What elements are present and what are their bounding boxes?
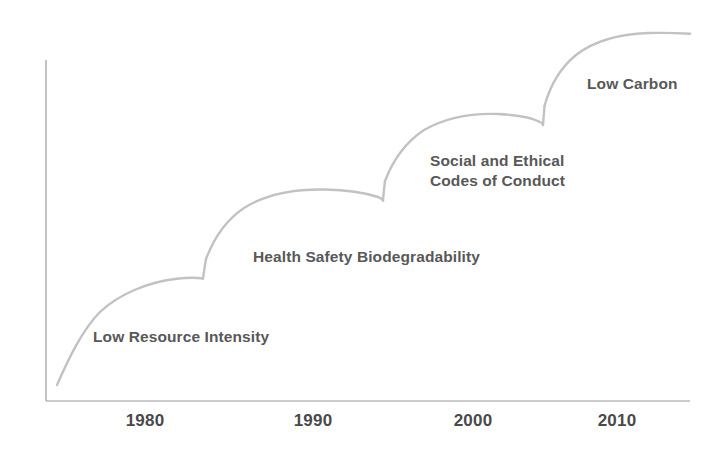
wave-label-low-carbon: Low Carbon [587, 74, 678, 94]
wave-3-to-4-step [543, 106, 545, 125]
wave-label-social-ethical-codes: Social and Ethical Codes of Conduct [430, 151, 565, 191]
wave-label-social-ethical-line1: Social and Ethical [430, 151, 565, 171]
x-tick-label-2000: 2000 [454, 411, 493, 431]
x-tick-label-1990: 1990 [294, 411, 333, 431]
wave-label-low-resource-intensity: Low Resource Intensity [93, 327, 269, 347]
x-tick-label-2010: 2010 [598, 411, 637, 431]
wave-label-social-ethical-line2: Codes of Conduct [430, 171, 565, 191]
wave-label-health-safety-biodegradability: Health Safety Biodegradability [253, 247, 480, 267]
wave-4-curve [545, 33, 691, 106]
s-curve-plot [0, 0, 721, 453]
chart-figure: 1980 1990 2000 2010 Low Resource Intensi… [0, 0, 721, 453]
x-tick-label-1980: 1980 [126, 411, 165, 431]
wave-2-to-3-step [383, 181, 385, 201]
wave-1-to-2-step [203, 259, 206, 279]
